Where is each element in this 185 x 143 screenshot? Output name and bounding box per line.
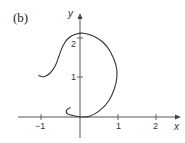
y-axis (77, 13, 83, 138)
panel-label: (b) (13, 10, 28, 26)
y-tick-label-1: 1 (71, 72, 76, 82)
y-tick-label-2: 2 (71, 39, 76, 49)
y-axis-arrow-icon (78, 13, 83, 19)
x-tick-label-neg1: −1 (35, 121, 45, 131)
x-axis-arrow-icon (175, 115, 181, 120)
x-tick-label-1: 1 (116, 121, 121, 131)
y-axis-label: y (68, 8, 73, 19)
x-axis-label: x (174, 121, 179, 132)
curve-series (38, 33, 117, 117)
x-axis (18, 114, 181, 120)
x-tick-label-2: 2 (153, 121, 158, 131)
